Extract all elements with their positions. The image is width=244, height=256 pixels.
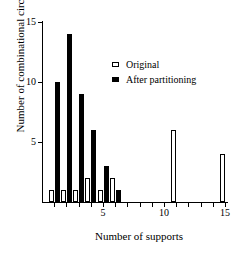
x-tick-label-15: 15: [215, 208, 235, 218]
x-tick-label-5: 5: [93, 208, 113, 218]
y-tick-label-5: 5: [12, 137, 36, 147]
bar-original-x15: [220, 154, 225, 202]
bar-original-x4: [85, 178, 90, 202]
bar-original-x2: [61, 190, 66, 202]
x-tick-12: [188, 203, 189, 207]
x-tick-3: [79, 203, 80, 207]
legend-swatch-original-icon: [112, 62, 119, 67]
x-tick-11: [176, 203, 177, 207]
x-tick-8: [140, 203, 141, 207]
bar-original-x1: [49, 190, 54, 202]
chart-legend: Original After partitioning: [112, 58, 196, 88]
bar-original-x6: [110, 178, 115, 202]
legend-item-original: Original: [112, 58, 196, 71]
y-tick-5: [38, 142, 42, 143]
bar-after-x5: [104, 166, 109, 202]
bar-after-x6: [116, 190, 121, 202]
y-tick-10: [38, 82, 42, 83]
x-tick-7: [127, 203, 128, 207]
x-axis-title: Number of supports: [0, 230, 244, 242]
histogram-figure: 5101551015 Original After partitioning N…: [0, 0, 244, 256]
bar-original-x5: [98, 190, 103, 202]
x-tick-1: [54, 203, 55, 207]
legend-label-after-partitioning: After partitioning: [126, 73, 196, 86]
bar-original-x3: [73, 190, 78, 202]
legend-item-after-partitioning: After partitioning: [112, 73, 196, 86]
bar-after-x1: [55, 82, 60, 202]
x-tick-label-10: 10: [154, 208, 174, 218]
y-tick-15: [38, 22, 42, 23]
bar-after-x4: [91, 130, 96, 202]
y-axis-title: Number of combinational circuits: [14, 0, 26, 138]
x-tick-4: [91, 203, 92, 207]
bar-after-x3: [79, 94, 84, 202]
x-tick-13: [201, 203, 202, 207]
x-tick-14: [213, 203, 214, 207]
x-tick-2: [66, 203, 67, 207]
legend-swatch-after-partitioning-icon: [112, 77, 119, 82]
bar-original-x11: [171, 130, 176, 202]
legend-label-original: Original: [126, 58, 159, 71]
y-axis-line: [42, 21, 43, 203]
bar-after-x2: [67, 34, 72, 202]
x-tick-9: [152, 203, 153, 207]
plot-area: 5101551015: [0, 0, 244, 256]
x-tick-6: [115, 203, 116, 207]
